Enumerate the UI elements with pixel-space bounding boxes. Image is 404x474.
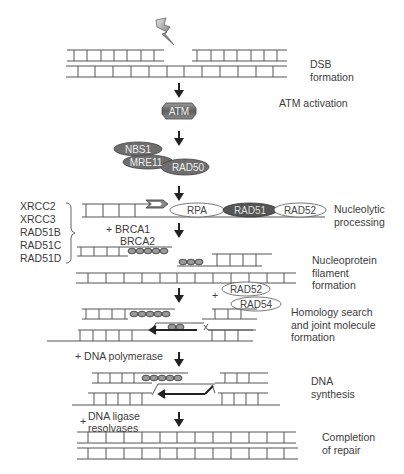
lightning-bolt-icon (156, 18, 174, 45)
paralog-item: RAD51B (20, 226, 61, 239)
cofactor-line: DNA ligase (88, 410, 140, 422)
step-label-line: processing (334, 216, 385, 229)
step-label-line: synthesis (311, 388, 355, 401)
rpa-rad51-rad52: RPA RAD51 RAD52 (170, 203, 326, 217)
paralog-item: XRCC3 (20, 213, 61, 226)
paralog-item: RAD51C (20, 239, 61, 252)
nbs1-label: NBS1 (125, 144, 152, 155)
step-label-line: of repair (322, 444, 375, 457)
step-label-line: filament (312, 267, 377, 280)
mrn-complex: NBS1 MRE11 RAD50 (114, 142, 209, 175)
cofactor-line: resolvases (88, 422, 140, 434)
rad51-beads-homology (130, 311, 184, 330)
rad51-paralogs-list: XRCC2 XRCC3 RAD51B RAD51C RAD51D (20, 200, 61, 265)
rad52-label: RAD52 (284, 205, 317, 216)
step-atm-activation: ATM activation (279, 97, 348, 110)
step-label-line: ATM activation (279, 97, 348, 110)
step-label-line: DNA (311, 375, 355, 388)
paralog-brace (66, 203, 75, 263)
extended-strand-arrow (159, 386, 213, 398)
rad52b-label: RAD52 (230, 284, 263, 295)
filament-dna (76, 247, 296, 283)
ligase-plus: + (80, 415, 86, 428)
paralog-item: RAD51D (20, 252, 61, 265)
atm-label: ATM (169, 106, 189, 117)
rad51-beads-synthesis (142, 375, 182, 381)
cofactor-line: + BRCA1 (106, 223, 155, 235)
step-dna-synthesis: DNA synthesis (311, 375, 355, 400)
paralog-item: XRCC2 (20, 200, 61, 213)
mre11-label: MRE11 (130, 157, 163, 168)
step-label-line: DSB (310, 58, 354, 71)
rad51-filament-beads (128, 248, 203, 265)
dna-broken-strand (66, 50, 287, 77)
rad52-rad54: RAD52 RAD54 (222, 282, 281, 311)
step-label-line: Nucleoprotein (312, 254, 377, 267)
ligase-resolvase-cofactors: DNA ligase resolvases (88, 410, 140, 434)
step-dsb-formation: DSB formation (310, 58, 354, 83)
atm-protein: ATM (162, 103, 196, 119)
step-filament-formation: Nucleoprotein filament formation (312, 254, 377, 292)
step-label-line: and joint molecule (291, 319, 376, 332)
step-label-line: formation (310, 71, 354, 84)
rad52-rad54-plus: + (212, 289, 218, 302)
step-homology-search: Homology search and joint molecule forma… (291, 306, 376, 344)
step-label-line: formation (312, 279, 377, 292)
rad50-label: RAD50 (172, 162, 205, 173)
step-label-line: formation (291, 331, 376, 344)
step-completion-of-repair: Completion of repair (322, 431, 375, 456)
rpa-label: RPA (187, 205, 207, 216)
step-label-line: Homology search (291, 306, 376, 319)
step-label-line: Completion (322, 431, 375, 444)
repaired-dna (77, 432, 298, 459)
rad51-label: RAD51 (234, 205, 267, 216)
step-nucleolytic-processing: Nucleolytic processing (334, 203, 385, 228)
cofactor-line: BRCA2 (106, 235, 155, 247)
dna-polymerase-cofactor: + DNA polymerase (75, 350, 163, 363)
rad54-label: RAD54 (240, 299, 273, 310)
brca-cofactors: + BRCA1 BRCA2 (106, 223, 155, 247)
step-label-line: Nucleolytic (334, 203, 385, 216)
